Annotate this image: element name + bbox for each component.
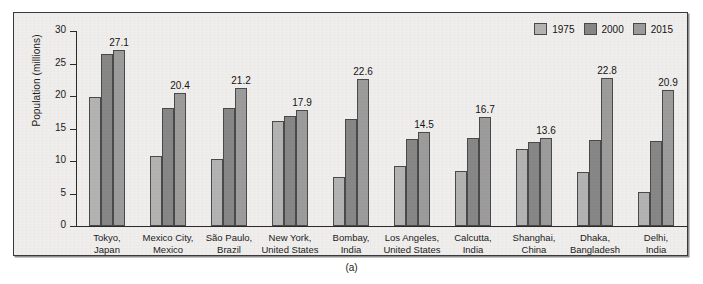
x-axis-line: [76, 226, 688, 227]
bar-1975: [455, 171, 467, 226]
bar-2000: [284, 116, 296, 226]
bar-1975: [333, 177, 345, 226]
bar-1975: [211, 159, 223, 226]
legend-label: 2015: [651, 24, 673, 35]
bar-value-label: 22.8: [597, 65, 616, 76]
x-axis-label: Delhi,India: [606, 232, 703, 255]
y-tick-label: 25: [55, 57, 66, 68]
bar-2015: 22.8: [601, 78, 613, 226]
bar-value-label: 20.4: [170, 80, 189, 91]
legend-item-1975: 1975: [534, 23, 574, 35]
x-axis-label-line2: India: [606, 244, 703, 256]
bar-2015: 21.2: [235, 88, 247, 226]
y-tick-label: 30: [55, 24, 66, 35]
bar-group-bars: 14.5: [394, 31, 430, 226]
bar-value-label: 13.6: [536, 125, 555, 136]
bar-value-label: 14.5: [414, 119, 433, 130]
y-tick-label: 5: [60, 187, 66, 198]
bar-value-label: 21.2: [231, 75, 250, 86]
figure: Population (millions) 051015202530 27.12…: [0, 0, 703, 284]
bar-group-bars: 16.7: [455, 31, 491, 226]
bar-group-bars: 13.6: [516, 31, 552, 226]
legend-swatch-1975: [534, 23, 547, 35]
bar-2000: [223, 108, 235, 226]
bar-1975: [516, 149, 528, 226]
bar-group-bars: 21.2: [211, 31, 247, 226]
legend-swatch-2015: [633, 23, 646, 35]
bar-1975: [394, 166, 406, 226]
figure-caption: (a): [0, 262, 703, 273]
bar-2000: [467, 138, 479, 226]
bar-2000: [101, 54, 113, 226]
y-tick-label: 15: [55, 122, 66, 133]
x-axis-label-line1: Delhi,: [606, 232, 703, 244]
bar-2000: [650, 141, 662, 226]
bar-2015: 20.9: [662, 90, 674, 226]
chart-panel: Population (millions) 051015202530 27.12…: [13, 12, 688, 256]
y-tick-label: 10: [55, 154, 66, 165]
legend: 197520002015: [534, 23, 673, 35]
bar-group-bars: 20.4: [150, 31, 186, 226]
y-tick-0: 0: [70, 226, 77, 227]
bar-2000: [528, 142, 540, 226]
y-tick-label: 0: [60, 219, 66, 230]
bar-value-label: 22.6: [353, 66, 372, 77]
bar-2015: 22.6: [357, 79, 369, 226]
y-tick-label: 20: [55, 89, 66, 100]
bar-2000: [589, 140, 601, 226]
legend-item-2000: 2000: [584, 23, 624, 35]
bar-value-label: 17.9: [292, 97, 311, 108]
bar-2000: [406, 139, 418, 226]
legend-label: 2000: [602, 24, 624, 35]
bar-value-label: 20.9: [658, 77, 677, 88]
bar-1975: [577, 172, 589, 226]
bar-2015: 20.4: [174, 93, 186, 226]
bar-value-label: 27.1: [109, 37, 128, 48]
legend-item-2015: 2015: [633, 23, 673, 35]
bar-2015: 16.7: [479, 117, 491, 226]
bar-group-bars: 22.8: [577, 31, 613, 226]
bar-group-bars: 27.1: [89, 31, 125, 226]
legend-label: 1975: [552, 24, 574, 35]
bar-2015: 27.1: [113, 50, 125, 226]
bar-2015: 17.9: [296, 110, 308, 226]
y-axis-title: Population (millions): [31, 11, 42, 151]
bar-group-bars: 20.9: [638, 31, 674, 226]
bar-2015: 14.5: [418, 132, 430, 226]
bar-1975: [150, 156, 162, 226]
bar-2000: [162, 108, 174, 226]
bar-value-label: 16.7: [475, 104, 494, 115]
bar-2015: 13.6: [540, 138, 552, 226]
plot-area: 27.120.421.217.922.614.516.713.622.820.9: [76, 31, 676, 226]
bar-1975: [272, 121, 284, 226]
legend-swatch-2000: [584, 23, 597, 35]
bar-1975: [89, 97, 101, 226]
bar-2000: [345, 119, 357, 226]
bar-group-bars: 17.9: [272, 31, 308, 226]
bar-group-bars: 22.6: [333, 31, 369, 226]
bar-1975: [638, 192, 650, 226]
